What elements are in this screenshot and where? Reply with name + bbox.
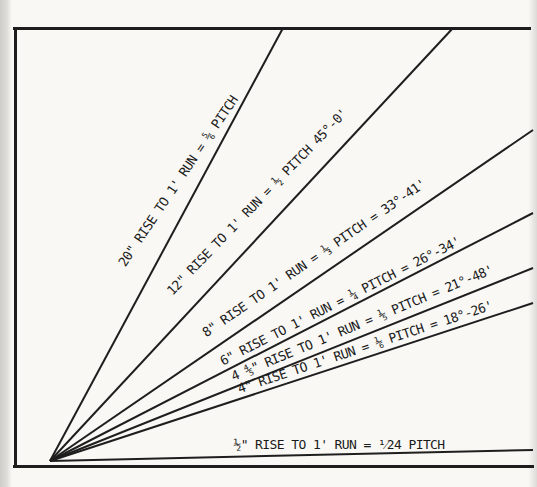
pitch-line-8-inch-rise [50,130,533,461]
pitch-line-half-inch-rise [50,450,533,461]
scanned-diagram-page: 20" RISE TO 1' RUN = ⅚ PITCH 12" RISE TO… [0,0,537,487]
pitch-label-half-inch: ½" RISE TO 1' RUN = ¹⁄24 PITCH [233,438,444,451]
